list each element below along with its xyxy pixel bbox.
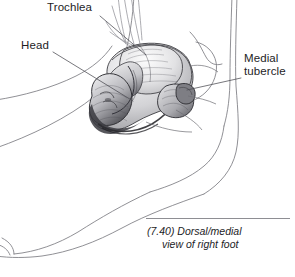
heel-bottom-contour bbox=[150, 126, 224, 192]
anatomical-figure: Trochlea Head Medialtubercle (7.40) Dors… bbox=[0, 0, 295, 277]
heel-back-contour bbox=[204, 0, 238, 194]
ankle-contour bbox=[190, 32, 222, 65]
label-head: Head bbox=[21, 39, 49, 52]
arch-contour bbox=[14, 192, 150, 254]
label-trochlea: Trochlea bbox=[47, 1, 92, 14]
talus-bone bbox=[89, 43, 218, 134]
toe-contour-2 bbox=[0, 244, 10, 255]
figure-caption: (7.40) Dorsal/medialview of right foot bbox=[146, 218, 291, 251]
label-medial-tubercle: Medialtubercle bbox=[244, 52, 286, 78]
caption-line-2: view of right foot bbox=[146, 238, 291, 251]
label-medial-tubercle-line-2: tubercle bbox=[244, 65, 286, 78]
caption-rule bbox=[146, 218, 290, 219]
caption-text: (7.40) Dorsal/medialview of right foot bbox=[146, 225, 291, 251]
extensor-tendons bbox=[106, 0, 142, 47]
medial-tubercle bbox=[176, 83, 195, 104]
label-medial-tubercle-line-1: Medial bbox=[244, 52, 286, 65]
achilles-contour bbox=[224, 0, 232, 126]
caption-line-1: (7.40) Dorsal/medial bbox=[146, 225, 291, 238]
